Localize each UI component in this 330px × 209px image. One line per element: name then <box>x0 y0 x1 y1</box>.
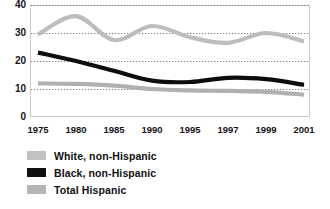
series-line <box>38 16 304 43</box>
legend-label-hispanic: Total Hispanic <box>54 184 126 196</box>
legend-label-white: White, non-Hispanic <box>54 150 157 162</box>
legend-label-black: Black, non-Hispanic <box>54 167 156 179</box>
legend-item-hispanic: Total Hispanic <box>27 181 257 198</box>
series-line <box>38 83 304 94</box>
legend-swatch-black <box>27 168 46 177</box>
chart-container: 010203040 197519801985199019951997199920… <box>0 0 330 209</box>
series-line <box>38 53 304 85</box>
legend-swatch-white <box>27 151 46 160</box>
legend-item-black: Black, non-Hispanic <box>27 164 257 181</box>
legend-swatch-hispanic <box>27 185 46 194</box>
legend-item-white: White, non-Hispanic <box>27 147 257 164</box>
chart-legend: White, non-Hispanic Black, non-Hispanic … <box>27 147 257 198</box>
series-lines <box>38 16 304 94</box>
